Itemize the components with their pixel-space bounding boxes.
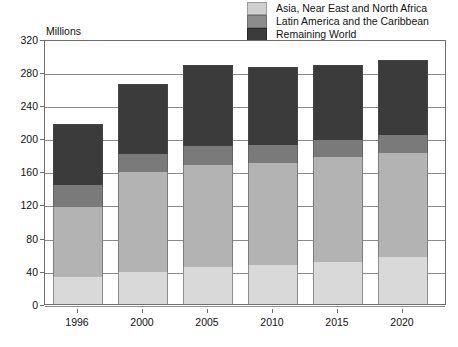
x-axis: 1996 2000 2005 2010 2015 2020 [44, 309, 446, 329]
bar-segment-latin-america [53, 207, 103, 277]
bar-segment-latin-america [378, 153, 428, 257]
bar-segment-latin-america [313, 157, 363, 262]
x-tick-label-2020: 2020 [377, 316, 427, 328]
bar-segment-remaining-world-dark [248, 67, 298, 145]
bar-segment-remaining-world-dark [183, 65, 233, 146]
plot-area [44, 40, 446, 305]
x-tick-mark [402, 309, 403, 313]
bar-2005[interactable] [183, 65, 233, 304]
bar-segment-remaining-world [53, 185, 103, 207]
y-tick-label: 0 [32, 300, 38, 310]
bar-segment-remaining-world [378, 135, 428, 153]
gridline [45, 306, 445, 307]
bar-1996[interactable] [53, 124, 103, 304]
bar-segment-remaining-world-dark [53, 124, 103, 185]
x-tick-label-2000: 2000 [117, 316, 167, 328]
y-tick-label: 160 [20, 167, 38, 177]
bar-2015[interactable] [313, 65, 363, 304]
bar-segment-latin-america [248, 163, 298, 265]
bar-segment-remaining-world-dark [378, 60, 428, 135]
bar-segment-latin-america [118, 172, 168, 272]
bar-2010[interactable] [248, 67, 298, 304]
x-tick-label-2005: 2005 [182, 316, 232, 328]
bar-segment-remaining-world [183, 146, 233, 165]
legend-label: Latin America and the Caribbean [276, 15, 429, 28]
bar-segment-remaining-world [313, 140, 363, 157]
bar-segment-asia-near-east [248, 265, 298, 304]
x-tick-label-2010: 2010 [247, 316, 297, 328]
y-axis-title: Millions [46, 25, 81, 37]
legend-item-latin-america-caribbean: Latin America and the Caribbean [247, 15, 429, 28]
stacked-bar-chart: Asia, Near East and North Africa Latin A… [0, 0, 458, 347]
legend-item-asia-near-east-north-africa: Asia, Near East and North Africa [247, 2, 429, 15]
y-tick-label: 40 [26, 267, 38, 277]
bar-segment-asia-near-east [183, 267, 233, 304]
y-tick-label: 240 [20, 101, 38, 111]
bar-2000[interactable] [118, 84, 168, 304]
y-tick-label: 320 [20, 35, 38, 45]
y-tick-label: 80 [26, 234, 38, 244]
legend-label: Asia, Near East and North Africa [276, 2, 427, 15]
y-tick-label: 120 [20, 200, 38, 210]
bar-segment-asia-near-east [53, 277, 103, 304]
x-tick-mark [272, 309, 273, 313]
bars-layer [45, 41, 445, 304]
x-tick-label-1996: 1996 [52, 316, 102, 328]
bar-segment-asia-near-east [313, 262, 363, 304]
bar-segment-latin-america [183, 165, 233, 267]
y-tick-mark [40, 305, 44, 306]
bar-segment-remaining-world [118, 154, 168, 172]
bar-segment-remaining-world-dark [118, 84, 168, 154]
legend-swatch-icon [247, 15, 267, 28]
chart-legend: Asia, Near East and North Africa Latin A… [247, 2, 429, 41]
bar-segment-asia-near-east [378, 257, 428, 304]
bar-2020[interactable] [378, 60, 428, 304]
legend-swatch-icon [247, 2, 267, 15]
x-tick-mark [207, 309, 208, 313]
bar-segment-remaining-world-dark [313, 65, 363, 140]
x-tick-mark [77, 309, 78, 313]
bar-segment-remaining-world [248, 145, 298, 163]
y-tick-label: 200 [20, 134, 38, 144]
x-tick-mark [337, 309, 338, 313]
y-axis: 320 280 240 200 160 120 80 40 0 [0, 0, 44, 347]
bar-segment-asia-near-east [118, 272, 168, 304]
y-tick-label: 280 [20, 68, 38, 78]
x-tick-label-2015: 2015 [312, 316, 362, 328]
x-tick-mark [142, 309, 143, 313]
